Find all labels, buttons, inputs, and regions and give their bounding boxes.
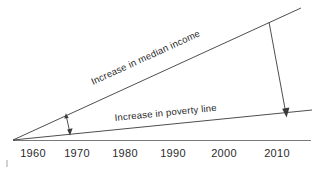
x-tick-label-1990: 1990 bbox=[160, 147, 186, 159]
x-tick-label-1980: 1980 bbox=[112, 147, 138, 159]
x-tick-label-1960: 1960 bbox=[20, 147, 46, 159]
x-tick-label-2010: 2010 bbox=[264, 147, 290, 159]
fan-chart-figure: Increase in median income Increase in po… bbox=[0, 0, 324, 170]
series-label-poverty: Increase in poverty line bbox=[114, 102, 217, 123]
series-label-median-income: Increase in median income bbox=[89, 27, 201, 86]
gap-arrow-1970 bbox=[64, 113, 72, 135]
x-tick-label-2000: 2000 bbox=[211, 147, 237, 159]
series-line-median-income bbox=[13, 8, 301, 140]
x-tick-label-1970: 1970 bbox=[64, 147, 90, 159]
chart-canvas: Increase in median income Increase in po… bbox=[0, 0, 324, 170]
gap-arrow-2010-shaft bbox=[269, 22, 286, 114]
gap-arrow-2010 bbox=[269, 22, 289, 118]
